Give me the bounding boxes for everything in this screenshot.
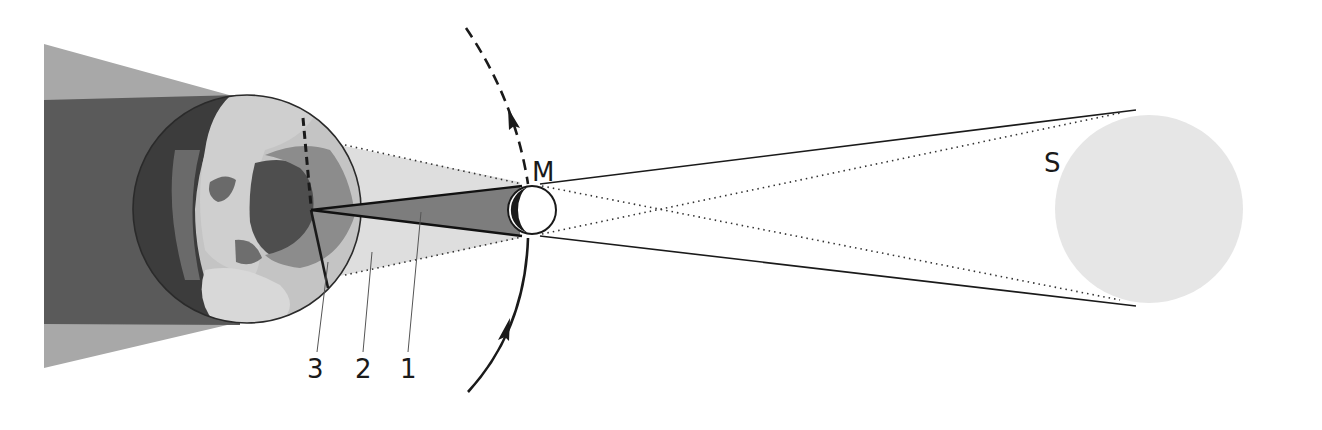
sun-moon-tangent-lines (540, 110, 1136, 306)
moon (508, 186, 556, 234)
solar-eclipse-diagram: M S 3 2 1 (0, 0, 1322, 430)
sun (1055, 115, 1243, 303)
orbit-dashed-arc (466, 28, 528, 184)
callout-1: 1 (400, 354, 417, 384)
orbit-solid-arc (468, 238, 528, 392)
callout-2: 2 (355, 354, 372, 384)
moon-label: M (532, 157, 554, 187)
callout-3: 3 (307, 354, 324, 384)
sun-label: S (1044, 148, 1061, 178)
